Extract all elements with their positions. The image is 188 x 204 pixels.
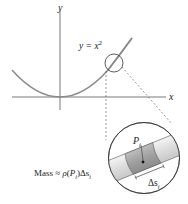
parabola-curve	[12, 38, 132, 97]
x-axis-label: x	[168, 91, 174, 102]
mass-formula: Mass ≈ ρ(Pi)Δsi	[34, 168, 91, 180]
leader-line-right	[122, 67, 172, 124]
point-pi	[142, 161, 145, 164]
magnified-view: Pi Δsi	[84, 123, 188, 194]
equation-label: y = x2	[78, 39, 103, 51]
y-axis-label: y	[57, 2, 63, 13]
diagram-canvas: y x y = x2 Pi	[0, 0, 188, 204]
axes: y x	[12, 2, 174, 110]
